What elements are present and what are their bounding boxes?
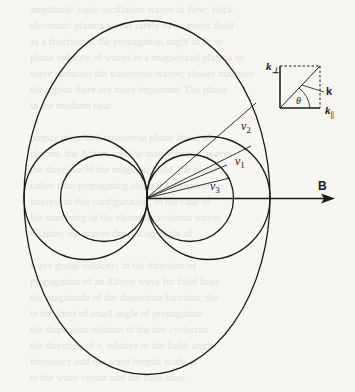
ray-v2	[147, 103, 256, 198]
theta-label: θ	[296, 95, 301, 106]
figure-canvas: amplitude: ionic oscillation waves in fl…	[0, 0, 355, 392]
k-vector-inset: θ k⊥ k k||	[266, 60, 334, 119]
k-parallel-label: k||	[325, 104, 334, 119]
label-v1: v1	[235, 154, 245, 170]
label-v2: v2	[241, 119, 251, 135]
label-v3: v3	[210, 179, 220, 195]
medium-circle-left	[24, 137, 147, 260]
b-field-label: B	[318, 179, 327, 193]
small-circle-left	[61, 155, 148, 242]
k-perp-label: k⊥	[266, 60, 279, 75]
k-label: k	[326, 85, 333, 97]
polar-diagram: B v2 v1 v3 θ k⊥ k k||	[0, 0, 355, 392]
